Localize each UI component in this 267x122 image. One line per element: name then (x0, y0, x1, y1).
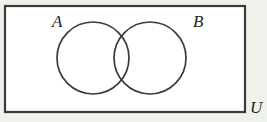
venn-diagram-figure: A B U (0, 0, 267, 122)
set-a-label: A (51, 12, 63, 31)
universal-set-rectangle (5, 6, 245, 112)
venn-diagram-canvas: A B U (0, 0, 267, 122)
universal-set-label: U (250, 98, 264, 117)
set-b-label: B (193, 12, 204, 31)
